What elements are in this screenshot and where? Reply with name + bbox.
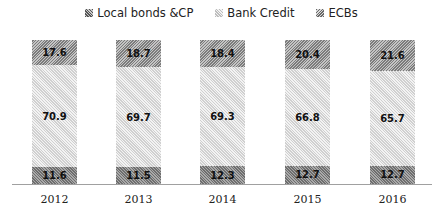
bar-2014: 12.369.318.4	[200, 40, 245, 184]
bar-segment-bank: 66.8	[285, 69, 330, 165]
data-label: 12.7	[378, 169, 407, 180]
data-label: 18.7	[124, 48, 153, 59]
bar-segment-bank: 65.7	[370, 71, 415, 166]
bar-segment-local: 11.6	[32, 167, 77, 184]
data-label: 65.7	[378, 113, 407, 124]
data-label: 11.5	[124, 170, 153, 181]
bar-segment-bank: 69.3	[200, 67, 245, 167]
plot-area: 11.670.917.6201211.569.718.7201312.369.3…	[0, 0, 443, 214]
bar-segment-local: 11.5	[116, 167, 161, 184]
data-label: 12.3	[208, 170, 237, 181]
bar-2015: 12.766.820.4	[285, 40, 330, 184]
bar-segment-ecb: 17.6	[32, 40, 77, 65]
bar-segment-ecb: 18.7	[116, 40, 161, 67]
x-tick-label: 2015	[285, 193, 330, 206]
data-label: 66.8	[293, 112, 322, 123]
bar-2013: 11.569.718.7	[116, 40, 161, 184]
bar-segment-ecb: 18.4	[200, 40, 245, 66]
data-label: 69.3	[208, 111, 237, 122]
x-tick-label: 2016	[370, 193, 415, 206]
data-label: 69.7	[124, 112, 153, 123]
data-label: 12.7	[293, 169, 322, 180]
bar-2012: 11.670.917.6	[32, 40, 77, 184]
data-label: 21.6	[378, 50, 407, 61]
data-label: 20.4	[293, 49, 322, 60]
bar-segment-ecb: 20.4	[285, 40, 330, 69]
x-tick-label: 2014	[200, 193, 245, 206]
bar-segment-local: 12.7	[285, 166, 330, 184]
x-tick-label: 2012	[32, 193, 77, 206]
bar-segment-local: 12.7	[370, 166, 415, 184]
x-axis-line	[12, 184, 432, 185]
x-tick-label: 2013	[116, 193, 161, 206]
bar-segment-local: 12.3	[200, 166, 245, 184]
data-label: 11.6	[40, 170, 69, 181]
data-label: 17.6	[40, 47, 69, 58]
bar-segment-ecb: 21.6	[370, 40, 415, 71]
bar-segment-bank: 70.9	[32, 65, 77, 167]
data-label: 18.4	[208, 48, 237, 59]
bar-segment-bank: 69.7	[116, 67, 161, 167]
bar-2016: 12.765.721.6	[370, 40, 415, 184]
data-label: 70.9	[40, 111, 69, 122]
